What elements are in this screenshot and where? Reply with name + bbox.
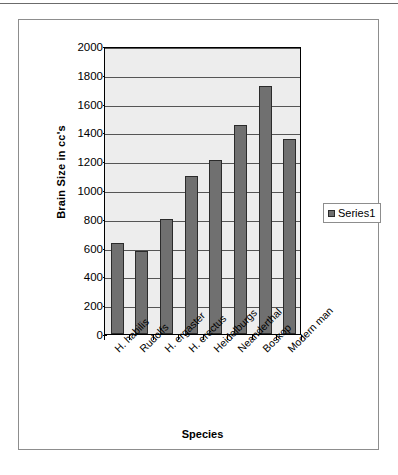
chart-frame: Brain Size in cc's 020040060080010001200… xyxy=(18,19,379,450)
page-top-rule xyxy=(0,3,398,4)
bar xyxy=(111,243,124,334)
y-tick-label: 400 xyxy=(61,271,103,283)
y-tick-label: 1000 xyxy=(61,185,103,197)
y-tick-label: 600 xyxy=(61,243,103,255)
y-tick-label: 2000 xyxy=(61,41,103,53)
y-tick-label: 1200 xyxy=(61,156,103,168)
bars-layer xyxy=(105,48,300,334)
x-axis-title: Species xyxy=(104,428,301,440)
chart-legend: Series1 xyxy=(323,203,381,223)
bar xyxy=(234,125,247,334)
y-tick-label: 1400 xyxy=(61,127,103,139)
bar xyxy=(160,219,173,334)
y-tick-label: 1800 xyxy=(61,70,103,82)
y-tick-label: 800 xyxy=(61,214,103,226)
bar xyxy=(259,86,272,334)
y-tick-label: 1600 xyxy=(61,99,103,111)
plot-area xyxy=(104,47,301,335)
legend-swatch-icon xyxy=(328,210,335,217)
x-axis-category-labels: H. habilisRudolfsH. ergasterH. erectusHe… xyxy=(79,340,339,420)
bar xyxy=(209,160,222,334)
y-tick-label: 200 xyxy=(61,300,103,312)
bar xyxy=(283,139,296,334)
legend-entry-label: Series1 xyxy=(338,207,375,219)
bar xyxy=(185,176,198,334)
y-axis-ticks: 0200400600800100012001400160018002000 xyxy=(55,47,103,335)
